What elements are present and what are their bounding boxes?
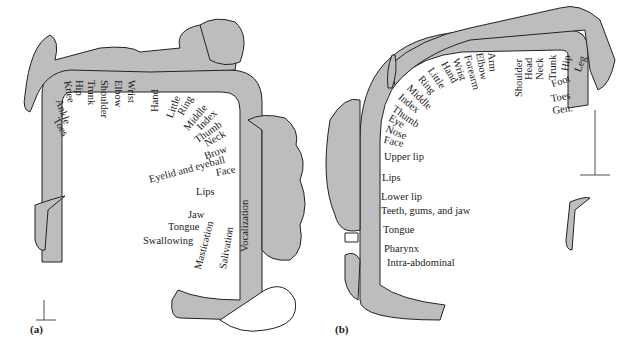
label-arm-b: Arm [486, 52, 498, 72]
label-tongue-a: Tongue [168, 222, 199, 233]
label-swallowing-a: Swallowing [143, 236, 193, 247]
label-trunk-a: Trunk [86, 80, 97, 105]
panel-label-a: (a) [30, 323, 43, 335]
label-wrist-a: Wrist [126, 80, 137, 103]
label-lips-b: Lips [382, 173, 401, 184]
label-tongue-b: Tongue [383, 225, 414, 236]
panel-b-leader-lines [36, 110, 610, 320]
label-shoulder-a: Shoulder [99, 80, 110, 118]
label-lower-lip-b: Lower lip [381, 192, 422, 203]
label-hip-a: Hip [74, 80, 85, 96]
label-jaw-a: Jaw [188, 210, 204, 221]
label-head-b: Head [524, 58, 535, 80]
label-upper-lip-b: Upper lip [384, 152, 424, 163]
figure-drawing [0, 0, 629, 350]
label-neck-b: Neck [535, 58, 546, 80]
label-lips-a: Lips [196, 187, 215, 198]
label-vocalization-a: Vocalization [240, 200, 251, 252]
panel-label-b: (b) [335, 323, 348, 335]
label-intra-abdominal-b: Intra-abdominal [387, 258, 455, 269]
homunculus-figure: Toes Ankle Knee Hip Trunk Shoulder Elbow… [0, 0, 629, 350]
label-elbow-a: Elbow [113, 80, 124, 107]
label-hand-a: Hand [150, 89, 161, 112]
label-teeth-b: Teeth, gums, and jaw [381, 206, 470, 217]
label-pharynx-b: Pharynx [384, 244, 419, 255]
